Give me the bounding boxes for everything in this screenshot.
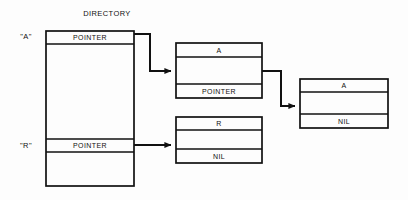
node-a-2-header: A: [341, 82, 346, 89]
node-a-1-footer: POINTER: [202, 88, 236, 95]
directory-slot-a-label: POINTER: [73, 34, 107, 41]
node-r-1-header: R: [216, 120, 221, 127]
directory-slot-r-label: POINTER: [73, 142, 107, 149]
node-a-1-header: A: [216, 47, 221, 54]
directory-key-a: "A": [20, 33, 32, 41]
directory-key-r: "R": [20, 142, 32, 150]
directory-title: DIRECTORY: [83, 10, 131, 18]
directory-structure-diagram: DIRECTORY "A" "R" POINTER POINTER A POIN…: [0, 0, 408, 200]
node-r-1-footer: NIL: [213, 153, 225, 160]
node-a-2-footer: NIL: [338, 118, 350, 125]
connector-a-to-node-a-1: [134, 34, 171, 71]
connector-node-a-1-to-node-a-2: [262, 71, 295, 106]
diagram-graphics: [0, 0, 408, 200]
directory-box: [46, 31, 134, 186]
